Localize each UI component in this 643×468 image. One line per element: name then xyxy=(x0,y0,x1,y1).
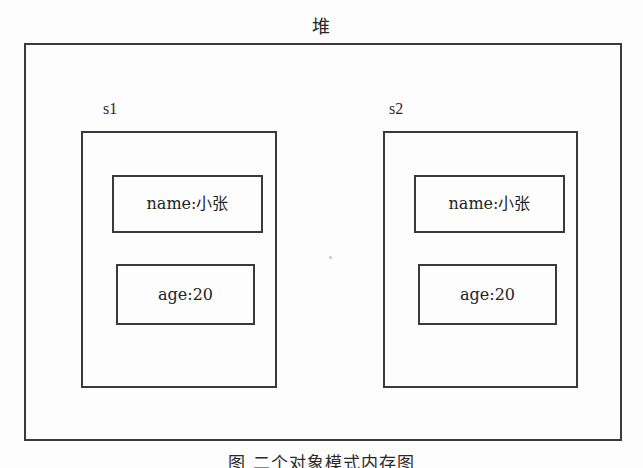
field-text-age-s1: age:20 xyxy=(158,285,213,305)
field-box-age-s1: age:20 xyxy=(116,264,255,325)
scan-artifact-speck xyxy=(329,256,332,259)
field-text-age-s2: age:20 xyxy=(460,285,515,305)
figure-caption-clip: 图 二个对象模式内存图 xyxy=(0,452,643,468)
heap-title: 堆 xyxy=(0,16,643,38)
field-box-name-s2: name:小张 xyxy=(414,175,565,233)
object-box-s1: name:小张 age:20 xyxy=(81,131,277,388)
field-box-age-s2: age:20 xyxy=(418,264,557,325)
object-label-s1: s1 xyxy=(103,100,117,118)
field-text-name-s1: name:小张 xyxy=(147,194,229,214)
figure-caption: 图 二个对象模式内存图 xyxy=(0,452,643,468)
field-box-name-s1: name:小张 xyxy=(112,175,263,233)
field-text-name-s2: name:小张 xyxy=(449,194,531,214)
object-label-s2: s2 xyxy=(389,100,403,118)
scanned-page: 堆 s1 s2 name:小张 age:20 name:小张 age:20 图 … xyxy=(0,0,643,468)
object-box-s2: name:小张 age:20 xyxy=(383,131,578,388)
